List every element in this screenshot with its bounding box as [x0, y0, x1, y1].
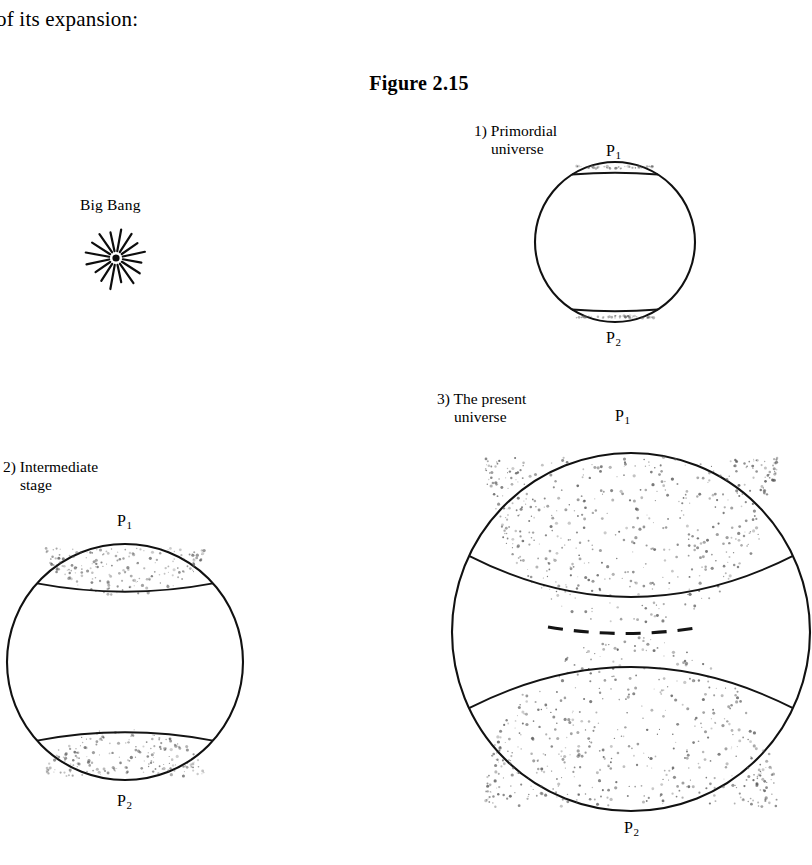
stipple-dot — [754, 515, 756, 517]
stipple-dot — [172, 561, 174, 563]
stipple-dot — [688, 539, 690, 541]
stipple-dot — [609, 767, 612, 770]
stipple-dot — [572, 712, 573, 713]
stipple-dot — [103, 591, 105, 593]
stipple-dot — [607, 789, 610, 792]
sphere-intermediate — [7, 544, 243, 780]
stipple-dot — [54, 769, 55, 770]
stipple-dot — [733, 564, 736, 567]
stipple-dot — [714, 777, 716, 779]
stipple-dot — [591, 608, 592, 609]
stipple-dot — [726, 551, 728, 553]
stipple-dot — [552, 716, 555, 719]
stipple-dot — [617, 752, 620, 755]
stipple-dot — [719, 590, 721, 592]
stipple-dot — [101, 733, 103, 735]
stipple-dot — [91, 552, 93, 554]
stipple-dot — [768, 753, 771, 756]
stipple-dot — [56, 548, 58, 550]
stipple-dot — [47, 769, 49, 771]
stipple-dot — [55, 571, 58, 574]
stipple-dot — [186, 766, 189, 769]
stipple-dot — [169, 738, 171, 740]
stipple-dot — [486, 464, 487, 465]
starburst-ray — [99, 234, 112, 252]
stipple-dot — [699, 575, 701, 577]
stipple-dot — [69, 769, 72, 772]
big-bang-starburst-icon — [86, 230, 145, 290]
stipple-dot — [606, 167, 607, 168]
stipple-dot — [636, 618, 639, 621]
point-label-p2-intermediate: P2 — [117, 793, 131, 809]
stipple-dot — [528, 532, 530, 534]
stipple-dot — [92, 770, 94, 772]
stipple-dot — [91, 581, 94, 584]
stipple-dot — [630, 580, 633, 583]
stipple-dot — [646, 643, 649, 646]
stipple-dot — [487, 798, 488, 799]
stipple-dot — [603, 491, 605, 493]
stipple-dot — [658, 679, 660, 681]
stipple-dot — [753, 744, 756, 747]
stipple-dot — [528, 520, 530, 522]
stipple-dot — [160, 582, 161, 583]
stipple-dot — [202, 549, 205, 552]
stipple-dot — [556, 594, 559, 597]
stipple-dot — [118, 732, 119, 733]
stipple-dot — [750, 756, 751, 757]
stipple-dot — [163, 764, 164, 765]
stipple-dot — [692, 660, 693, 661]
stipple-dot — [196, 773, 198, 775]
stipple-dot — [646, 317, 648, 319]
stipple-dot — [775, 463, 776, 464]
stipple-dot — [534, 473, 537, 476]
stipple-dot — [648, 461, 650, 463]
stipple-dot — [709, 497, 711, 499]
stipple-dot — [688, 767, 689, 768]
stipple-dot — [624, 316, 627, 319]
stipple-dot — [676, 663, 679, 666]
stipple-dot — [647, 316, 649, 318]
stipple-dot — [576, 317, 578, 319]
stipple-dot — [184, 771, 185, 772]
stipple-dot — [124, 571, 126, 573]
stipple-dot — [728, 578, 730, 580]
stipple-dot — [518, 804, 521, 807]
stipple-dot — [524, 484, 525, 485]
stipple-dot — [92, 751, 95, 754]
stipple-dot — [85, 747, 88, 750]
stipple-dot — [560, 750, 562, 752]
stipple-dot — [706, 777, 708, 779]
stipple-dot — [757, 778, 759, 780]
stipple-dot — [588, 668, 590, 670]
stipple-dot — [773, 479, 776, 482]
stipple-dot — [560, 755, 561, 756]
top-cap-stipple — [575, 164, 654, 169]
stipple-dot — [605, 644, 607, 646]
stipple-dot — [748, 544, 749, 545]
stipple-dot — [192, 559, 195, 562]
figure-drawing — [0, 0, 812, 865]
stipple-dot — [640, 489, 642, 491]
stipple-dot — [195, 556, 198, 559]
stipple-dot — [634, 465, 636, 467]
stipple-dot — [62, 557, 65, 560]
stipple-dot — [648, 316, 651, 319]
stipple-dot — [702, 698, 705, 701]
stipple-dot — [713, 794, 716, 797]
stipple-dot — [767, 474, 770, 477]
stipple-dot — [696, 476, 699, 479]
stipple-dot — [621, 658, 623, 660]
stipple-dot — [159, 574, 161, 576]
stipple-dot — [116, 768, 117, 769]
stipple-dot — [610, 489, 613, 492]
stipple-dot — [192, 562, 194, 564]
stipple-dot — [655, 756, 657, 758]
stipple-dot — [551, 770, 552, 771]
stipple-dot — [686, 490, 689, 493]
stipple-dot — [519, 469, 521, 471]
stipple-dot — [599, 769, 601, 771]
stipple-dot — [137, 749, 140, 752]
stipple-dot — [627, 315, 629, 317]
stipple-dot — [159, 552, 161, 554]
